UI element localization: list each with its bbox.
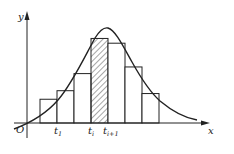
histogram-bar	[74, 74, 91, 123]
histogram-bars	[40, 38, 159, 123]
origin-label: O	[16, 124, 24, 135]
histogram-bar	[40, 99, 57, 123]
histogram-bar	[108, 43, 125, 123]
histogram-bar	[57, 91, 74, 123]
tick-label-t1: t1	[54, 125, 62, 138]
tick-label-ti-plus-1: ti+1	[103, 125, 119, 138]
y-axis-arrow-icon	[25, 11, 30, 20]
hatched-bar	[91, 38, 108, 123]
x-axis-label: x	[208, 125, 214, 136]
histogram-diagram: y x O t1 ti ti+1	[0, 0, 234, 154]
tick-label-ti: ti	[88, 125, 94, 138]
y-axis-label: y	[17, 11, 24, 22]
